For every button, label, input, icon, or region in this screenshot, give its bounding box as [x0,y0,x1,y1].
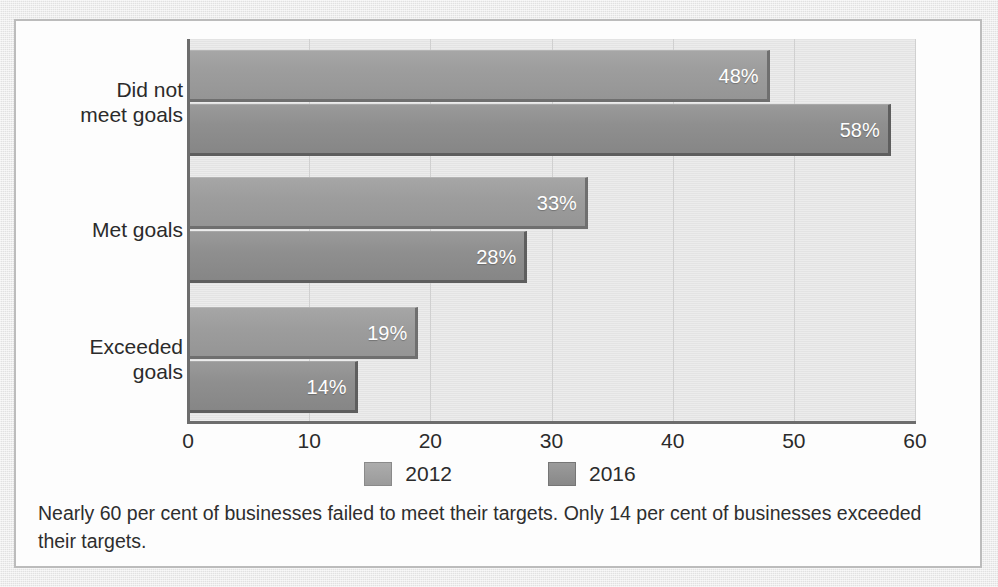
legend-label-2012: 2012 [405,462,452,486]
bar-value-label: 19% [367,323,407,343]
legend-swatch-2016-icon [548,462,576,486]
legend-item-2012: 2012 [364,462,452,486]
x-tick-label-20: 20 [419,429,442,453]
chart-figure: 48%58%33%28%19%14% Did not meet goalsMet… [14,19,982,568]
bar-value-label: 14% [307,377,347,397]
legend-swatch-2012-icon [364,462,392,486]
plot-area: 48%58%33%28%19%14% [188,39,915,423]
legend-item-2016: 2016 [548,462,636,486]
bar-2016-3: 14% [188,361,358,413]
bar-value-label: 58% [840,120,880,140]
bar-value-label: 33% [537,193,577,213]
category-label-1: Did not meet goals [80,78,183,128]
bar-value-label: 28% [476,247,516,267]
bar-2012-1: 48% [188,50,770,102]
x-axis-line [187,421,916,424]
bar-2012-3: 19% [188,307,418,359]
bar-2016-1: 58% [188,104,891,156]
x-tick-label-50: 50 [782,429,805,453]
plot-wrapper: 48%58%33%28%19%14% Did not meet goalsMet… [16,21,984,441]
bar-2016-2: 28% [188,231,527,283]
category-label-2: Met goals [92,218,183,243]
y-axis-line [187,39,190,424]
category-label-3: Exceeded goals [90,335,183,385]
x-tick-label-60: 60 [903,429,926,453]
bar-2012-2: 33% [188,177,588,229]
bar-body [188,50,770,102]
bar-body [188,104,891,156]
chart-legend: 2012 2016 [16,462,984,486]
x-tick-label-0: 0 [182,429,194,453]
legend-label-2016: 2016 [589,462,636,486]
gridline-60 [915,39,916,423]
gridline-50 [794,39,795,423]
x-tick-label-40: 40 [661,429,684,453]
chart-caption: Nearly 60 per cent of businesses failed … [38,499,960,556]
x-tick-label-10: 10 [297,429,320,453]
bar-value-label: 48% [719,66,759,86]
x-tick-label-30: 30 [540,429,563,453]
bar-body [188,177,588,229]
